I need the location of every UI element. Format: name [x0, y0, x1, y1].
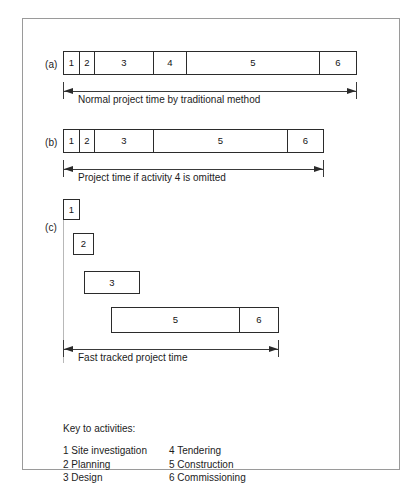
gantt-bar-c: 5 6	[111, 307, 279, 333]
span-label-a: Normal project time by traditional metho…	[78, 94, 260, 106]
key-item-4: 4 Tendering	[169, 444, 246, 458]
bar-segment-c-5: 5	[112, 308, 240, 332]
bar-segment-b-5: 5	[154, 130, 288, 152]
arrowhead-right-c	[269, 346, 278, 352]
key-item-1: 1 Site investigation	[63, 444, 169, 458]
arrowhead-left-a	[64, 88, 73, 94]
key-item-5: 5 Construction	[169, 458, 246, 472]
bar-segment-a-4: 4	[154, 52, 187, 74]
span-tick-right-c	[278, 340, 279, 357]
span-arrow-a	[63, 91, 357, 92]
bar-segment-a-5: 5	[187, 52, 320, 74]
bar-segment-a-6: 6	[320, 52, 356, 74]
key-item-2: 2 Planning	[63, 458, 169, 472]
span-tick-right-a	[356, 82, 357, 99]
key-columns: 1 Site investigation 2 Planning 3 Design…	[63, 444, 246, 485]
arrowhead-right-a	[347, 88, 356, 94]
row-label-c: (c)	[45, 222, 57, 234]
bar-segment-c-6: 6	[240, 308, 278, 332]
row-label-b: (b)	[45, 137, 58, 149]
key-item-6: 6 Commissioning	[169, 471, 246, 485]
span-label-b: Project time if activity 4 is omitted	[78, 172, 226, 184]
bar-segment-a-2: 2	[80, 52, 95, 74]
key-item-3: 3 Design	[63, 471, 169, 485]
bar-segment-a-1: 1	[64, 52, 80, 74]
gantt-bar-b: 1 2 3 5 6	[63, 129, 324, 153]
row-label-a: (a)	[45, 59, 58, 71]
bar-segment-b-1: 1	[64, 130, 80, 152]
key-title: Key to activities:	[63, 423, 246, 435]
key-to-activities: Key to activities: 1 Site investigation …	[63, 423, 246, 485]
bar-segment-a-3: 3	[95, 52, 154, 74]
activity-box-c-2: 2	[73, 233, 94, 255]
bar-segment-b-2: 2	[80, 130, 95, 152]
activity-box-c-3: 3	[84, 271, 140, 294]
figure-frame: (a) 1 2 3 4 5 6 Normal project time by t…	[22, 18, 400, 470]
span-tick-right-b	[323, 160, 324, 177]
key-column-left: 1 Site investigation 2 Planning 3 Design	[63, 444, 169, 485]
span-arrow-c	[63, 349, 279, 350]
activity-box-c-1: 1	[63, 199, 80, 220]
arrowhead-left-c	[64, 346, 73, 352]
span-arrow-b	[63, 169, 324, 170]
bar-segment-b-6: 6	[288, 130, 323, 152]
gantt-bar-a: 1 2 3 4 5 6	[63, 51, 357, 75]
arrowhead-left-b	[64, 166, 73, 172]
bar-segment-b-3: 3	[95, 130, 154, 152]
arrowhead-right-b	[314, 166, 323, 172]
key-column-right: 4 Tendering 5 Construction 6 Commissioni…	[169, 444, 246, 485]
span-label-c: Fast tracked project time	[78, 352, 187, 364]
